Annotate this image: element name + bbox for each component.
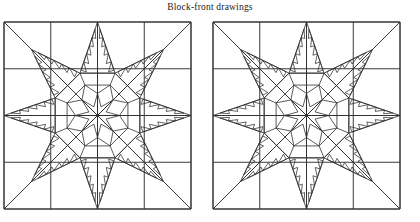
feather-tooth — [35, 167, 42, 175]
feather-tooth — [248, 159, 256, 167]
medallion-ray — [276, 116, 284, 129]
feather-tooth — [69, 68, 77, 77]
feather-tooth — [84, 167, 89, 177]
feather-tooth — [263, 163, 271, 171]
feather-tooth — [38, 53, 46, 60]
feather-tooth — [358, 159, 366, 167]
feather-tooth — [247, 171, 255, 178]
feather-tooth — [69, 154, 77, 163]
ring-spoke — [55, 98, 67, 103]
ring-spoke — [80, 146, 85, 158]
feather-tooth — [345, 136, 354, 144]
feather-tooth — [362, 167, 369, 175]
feather-tooth — [244, 167, 251, 175]
feather-tooth — [251, 151, 259, 159]
feather-tooth — [313, 176, 317, 186]
feather-tooth — [311, 184, 315, 194]
feather-tooth — [342, 60, 350, 68]
quilt-block-right-block — [212, 21, 401, 210]
feather-tooth — [118, 154, 126, 163]
ring-spoke — [110, 146, 115, 158]
feather-tooth — [87, 46, 91, 56]
ring-spoke — [289, 73, 294, 85]
ring-spoke — [264, 98, 276, 103]
feather-tooth — [104, 46, 108, 56]
feather-tooth — [19, 120, 29, 124]
feather-tooth — [228, 107, 238, 111]
feather-tooth — [38, 171, 46, 178]
medallion-ray — [98, 85, 111, 93]
feather-tooth — [350, 57, 358, 65]
feather-tooth — [255, 167, 263, 175]
medallion-ray — [120, 103, 128, 116]
feather-tooth — [149, 53, 157, 60]
feather-tooth — [149, 124, 159, 129]
feather-tooth — [248, 64, 256, 72]
feather-tooth — [54, 60, 62, 68]
feather-tooth — [358, 102, 368, 107]
ring-spoke — [55, 128, 67, 133]
feather-tooth — [293, 167, 298, 177]
medallion-ray — [329, 116, 337, 129]
feather-tooth — [136, 136, 145, 144]
feather-tooth — [245, 102, 255, 107]
feather-tooth — [36, 124, 46, 129]
feather-tooth — [28, 122, 38, 126]
feather-tooth — [145, 151, 153, 159]
feather-tooth — [259, 87, 268, 95]
feather-tooth — [106, 54, 111, 64]
medallion-ray — [67, 103, 75, 116]
feather-tooth — [42, 72, 50, 80]
feather-tooth — [263, 60, 271, 68]
medallion-ray — [294, 138, 307, 146]
feather-tooth — [315, 54, 320, 64]
feather-tooth — [375, 120, 385, 124]
feather-tooth — [141, 57, 149, 65]
feather-tooth — [141, 167, 149, 175]
feather-tooth — [247, 53, 255, 60]
medallion-ray — [120, 116, 128, 129]
ring-spoke — [337, 128, 349, 133]
feather-tooth — [149, 102, 159, 107]
feather-tooth — [245, 124, 255, 129]
feather-tooth — [244, 56, 251, 64]
feather-tooth — [296, 176, 300, 186]
feather-tooth — [327, 68, 335, 77]
feather-tooth — [46, 57, 54, 65]
feather-tooth — [106, 167, 111, 177]
feather-tooth — [102, 184, 106, 194]
feather-tooth — [354, 72, 362, 80]
feather-tooth — [158, 122, 168, 126]
feather-tooth — [278, 68, 286, 77]
ring-spoke — [128, 98, 140, 103]
ring-spoke — [264, 128, 276, 133]
feather-tooth — [50, 87, 59, 95]
feather-tooth — [237, 105, 247, 109]
feather-tooth — [87, 176, 91, 186]
medallion-ray — [307, 85, 320, 93]
feather-tooth — [298, 184, 302, 194]
feather-tooth — [278, 154, 286, 163]
feather-tooth — [136, 87, 145, 95]
figure-caption: Block-front drawings — [0, 1, 420, 14]
feather-tooth — [311, 37, 315, 47]
feather-tooth — [50, 136, 59, 144]
feather-tooth — [149, 64, 157, 72]
feather-tooth — [102, 37, 106, 47]
feather-tooth — [354, 151, 362, 159]
ring-spoke — [128, 128, 140, 133]
feather-tooth — [19, 107, 29, 111]
feather-tooth — [358, 53, 366, 60]
feather-tooth — [313, 46, 317, 56]
feather-tooth — [118, 68, 126, 77]
feather-tooth — [158, 105, 168, 109]
feather-tooth — [358, 171, 366, 178]
quilt-block-left-block — [3, 21, 192, 210]
feather-tooth — [145, 72, 153, 80]
feather-tooth — [89, 184, 93, 194]
feather-tooth — [104, 176, 108, 186]
feather-tooth — [46, 167, 54, 175]
feather-tooth — [345, 87, 354, 95]
figure-area — [0, 16, 420, 222]
feather-tooth — [327, 154, 335, 163]
